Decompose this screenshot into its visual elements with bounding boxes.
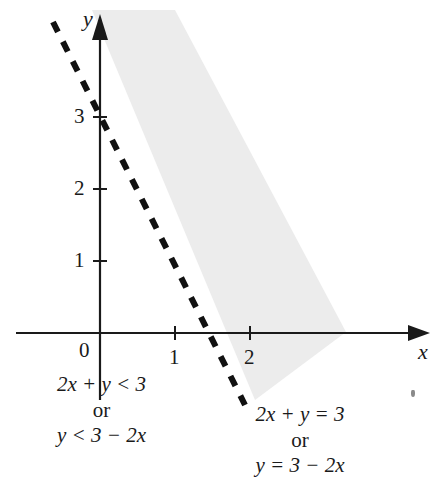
y-tick-label-2: 2 [74, 178, 85, 199]
y-axis-label: y [83, 8, 93, 30]
boundary-line-2: or [210, 428, 390, 454]
boundary-line-1: 2x + y = 3 [210, 402, 390, 428]
shaded-region-polygon [92, 10, 346, 400]
x-tick-label-0: 0 [79, 340, 90, 361]
y-tick-label-1: 1 [74, 250, 85, 271]
stray-speck [411, 390, 415, 397]
inequality-line-3: y < 3 − 2x [14, 423, 189, 449]
inequality-line-1: 2x + y < 3 [14, 372, 189, 398]
boundary-line-3: y = 3 − 2x [210, 453, 390, 479]
y-tick-label-3: 3 [74, 106, 85, 127]
inequality-graph-figure: 3 2 1 0 1 2 y x 2x + y < 3 or y < 3 − 2x… [0, 0, 446, 504]
x-tick-label-2: 2 [244, 347, 255, 368]
x-axis-label: x [418, 341, 428, 363]
inequality-annotation: 2x + y < 3 or y < 3 − 2x [14, 372, 189, 449]
inequality-line-2: or [14, 398, 189, 424]
x-tick-label-1: 1 [169, 347, 180, 368]
boundary-equation-annotation: 2x + y = 3 or y = 3 − 2x [210, 402, 390, 479]
